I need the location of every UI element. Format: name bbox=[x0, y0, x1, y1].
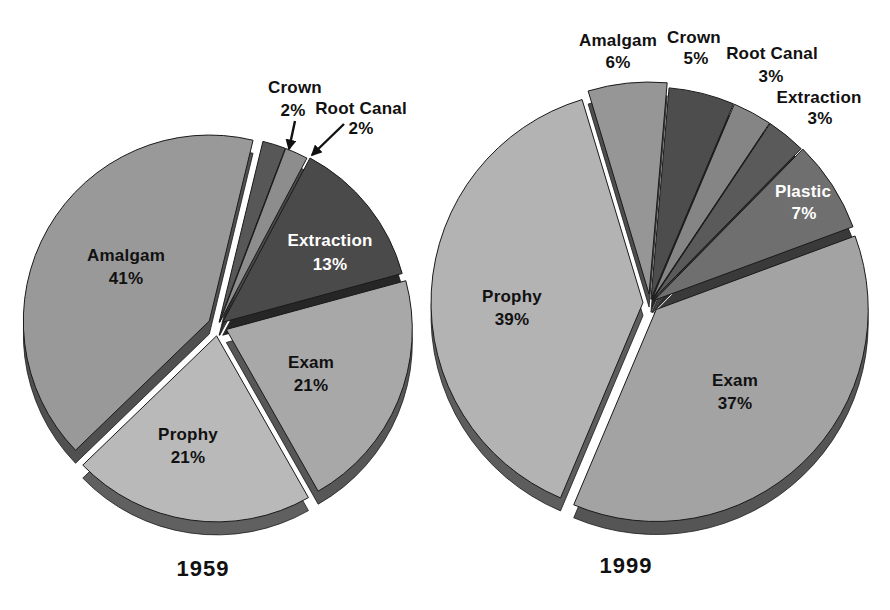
chart-year-label-1999: 1999 bbox=[600, 553, 653, 579]
pie-1999: Amalgam6%Crown5%Root Canal3%Extraction3%… bbox=[431, 28, 868, 535]
callout-arrow-crown bbox=[289, 121, 295, 149]
slice-label-crown: Crown5% bbox=[667, 28, 721, 68]
pie-chart-canvas: Crown2%Root Canal2%Extraction13%Exam21%P… bbox=[0, 0, 890, 610]
chart-year-label-1959: 1959 bbox=[177, 556, 230, 582]
dual-pie-chart-figure: Crown2%Root Canal2%Extraction13%Exam21%P… bbox=[0, 0, 890, 610]
slice-label-crown: Crown2% bbox=[268, 78, 322, 120]
slice-label-extraction: Extraction3% bbox=[776, 88, 861, 128]
pie-1959: Crown2%Root Canal2%Extraction13%Exam21%P… bbox=[23, 78, 412, 535]
slice-label-amalgam: Amalgam6% bbox=[579, 31, 657, 72]
callout-arrow-root-canal bbox=[312, 124, 344, 155]
slice-label-root-canal: Root Canal3% bbox=[726, 44, 818, 86]
slice-label-root-canal: Root Canal2% bbox=[315, 99, 407, 138]
